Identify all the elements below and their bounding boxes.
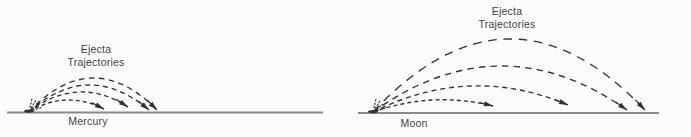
launch-spray-dash <box>39 107 41 108</box>
moon-label: Moon <box>374 117 454 129</box>
launch-spray-dash <box>31 99 32 101</box>
mercury-label: Mercury <box>48 115 128 127</box>
launch-spray-dash <box>33 110 35 111</box>
arrowhead <box>119 100 128 107</box>
ejecta-trajectories-annotation-mercury: Ejecta Trajectories <box>36 43 156 69</box>
ejecta-trajectories-figure: Ejecta Trajectories Ejecta Trajectories … <box>0 0 691 137</box>
panel-moon <box>358 39 659 113</box>
launch-spray-dash <box>36 109 38 110</box>
annotation-line-1: Ejecta <box>447 5 567 18</box>
arrowhead <box>484 101 493 106</box>
trajectory-arc <box>373 100 493 112</box>
arrowhead <box>559 99 568 105</box>
launch-spray-dash <box>33 103 34 105</box>
launch-spray-dash <box>383 108 385 109</box>
launch-spray-dash <box>375 103 376 105</box>
ejecta-trajectories-annotation-moon: Ejecta Trajectories <box>447 5 567 31</box>
launch-spray-dash <box>379 101 380 103</box>
arrowhead <box>95 103 104 109</box>
launch-spray-dash <box>31 102 32 104</box>
trajectory-arc <box>373 86 568 112</box>
trajectory-arc <box>29 92 128 112</box>
launch-spray-dash <box>35 100 36 102</box>
launch-spray-dash <box>375 99 376 101</box>
launch-spray-dash <box>377 104 378 106</box>
trajectory-arc <box>29 78 157 112</box>
launch-spray-dash <box>374 106 375 108</box>
arrowhead <box>618 103 627 110</box>
annotation-line-2: Trajectories <box>447 18 567 31</box>
panel-mercury <box>7 78 323 113</box>
trajectory-arc <box>373 39 645 112</box>
launch-spray-dash <box>30 105 31 107</box>
trajectory-arc <box>373 66 627 112</box>
annotation-line-2: Trajectories <box>36 56 156 69</box>
annotation-line-1: Ejecta <box>36 43 156 56</box>
